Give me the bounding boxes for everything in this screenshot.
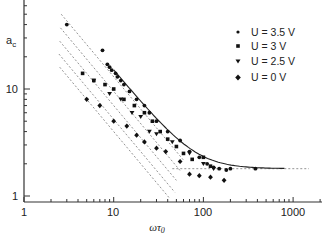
data-point: [166, 137, 170, 141]
master-curve: [114, 70, 285, 169]
data-point: [187, 152, 192, 156]
data-point: [124, 124, 129, 129]
data-point: [158, 130, 162, 134]
data-point: [65, 23, 69, 27]
legend-marker-dot-icon: [236, 30, 239, 33]
x-axis-title: ωτ0: [149, 221, 165, 235]
data-point: [197, 173, 202, 178]
data-point: [224, 168, 228, 172]
y-tick-label-1: 1: [12, 190, 18, 202]
y-axis-title: ac: [6, 34, 16, 49]
legend-label: U = 3 V: [251, 40, 286, 52]
data-point: [217, 167, 221, 171]
data-point: [166, 130, 170, 134]
data-point: [112, 87, 116, 91]
data-point: [229, 167, 233, 171]
data-point: [178, 139, 182, 143]
data-point: [97, 103, 102, 108]
legend-marker-triangle-icon: [236, 60, 241, 64]
data-point: [202, 155, 206, 159]
data-point: [154, 146, 159, 151]
data-point: [205, 162, 209, 166]
data-point: [155, 119, 159, 123]
data-point: [122, 83, 126, 87]
data-point: [154, 132, 159, 136]
data-point: [182, 152, 186, 156]
chart-canvas: 1 10 100 1000 10 1 ωτ0 ac U = 3.5 V U = …: [0, 0, 328, 235]
data-point: [103, 83, 107, 87]
data-point: [107, 92, 112, 96]
data-point: [101, 48, 105, 52]
data-point: [138, 115, 143, 119]
data-point: [254, 167, 258, 171]
y-axis-ticks: [24, 6, 30, 196]
x-axis-ticks: [24, 197, 320, 202]
data-point: [178, 159, 183, 164]
x-tick-label-10: 10: [107, 206, 119, 218]
data-point: [151, 119, 155, 123]
data-point: [130, 111, 135, 115]
legend-label: U = 3.5 V: [251, 26, 295, 38]
legend-marker-diamond-icon: [235, 75, 241, 81]
x-tick-label-1: 1: [21, 206, 27, 218]
data-point: [81, 72, 85, 76]
data-point: [170, 140, 175, 144]
data-point: [143, 104, 147, 108]
data-point: [175, 145, 179, 149]
data-point: [147, 130, 152, 134]
data-points: [65, 23, 257, 183]
data-point: [190, 158, 194, 162]
data-point: [134, 133, 139, 138]
data-point: [133, 104, 137, 108]
data-point: [147, 111, 151, 115]
data-point: [208, 175, 213, 180]
data-point: [222, 178, 227, 183]
legend: U = 3.5 V U = 3 V U = 2.5 V U = 0 V: [235, 26, 295, 83]
dashed-diagonal-line: [60, 67, 170, 198]
legend-label: U = 0 V: [251, 71, 286, 83]
data-point: [128, 89, 132, 93]
data-point: [116, 75, 120, 79]
data-point: [143, 111, 147, 115]
x-tick-label-100: 100: [194, 206, 212, 218]
dashed-diagonal-line: [60, 41, 177, 180]
data-point: [114, 71, 118, 75]
x-tick-label-1000: 1000: [281, 206, 305, 218]
legend-marker-square-icon: [236, 44, 240, 48]
data-point: [211, 167, 216, 171]
legend-label: U = 2.5 V: [251, 55, 295, 67]
data-point: [163, 149, 168, 154]
data-point: [111, 119, 116, 124]
data-point: [110, 68, 114, 72]
y-tick-label-10: 10: [6, 83, 18, 95]
data-point: [197, 155, 201, 159]
data-point: [201, 162, 206, 166]
data-point: [119, 79, 123, 83]
data-point: [135, 97, 139, 101]
data-point: [187, 172, 192, 177]
dashed-diagonal-line: [61, 14, 183, 160]
